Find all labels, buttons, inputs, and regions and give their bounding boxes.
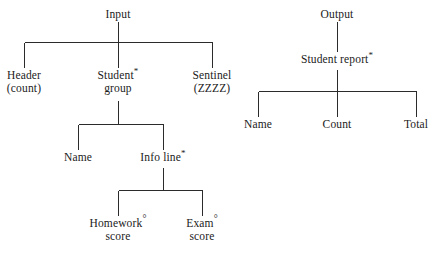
optional-marker-degree: ° — [142, 213, 146, 224]
node-sentinel-label-line1: Sentinel — [193, 69, 232, 82]
repetition-marker-asterisk: * — [134, 66, 139, 76]
node-name-label: Name — [64, 151, 92, 164]
node-out-name-label: Name — [244, 118, 272, 131]
repetition-marker-asterisk: * — [368, 50, 373, 60]
node-sentinel: Sentinel (ZZZZ) — [193, 69, 232, 95]
node-header-label-line1: Header — [7, 69, 41, 82]
node-out-total-label: Total — [404, 118, 428, 131]
node-student-group-text: Student — [98, 69, 134, 81]
node-out-count-label: Count — [323, 118, 352, 131]
repetition-marker-asterisk: * — [181, 148, 186, 158]
node-homework-score-label-line1: Homework° — [89, 217, 146, 230]
node-input-label: Input — [105, 8, 130, 21]
node-student-report-text: Student report — [301, 53, 369, 65]
node-info-line: Info line* — [140, 151, 185, 164]
node-student-report: Student report* — [301, 53, 373, 66]
node-header-label-line2: (count) — [7, 82, 41, 95]
optional-marker-degree: ° — [214, 213, 218, 224]
node-homework-score-label-line2: score — [89, 230, 146, 243]
node-out-count: Count — [323, 118, 352, 131]
node-out-name: Name — [244, 118, 272, 131]
node-student-group: Student* group — [98, 69, 139, 95]
node-info-line-text: Info line — [140, 151, 181, 163]
node-input: Input — [105, 8, 130, 21]
node-name: Name — [64, 151, 92, 164]
node-header: Header (count) — [7, 69, 41, 95]
node-student-group-label-line1: Student* — [98, 69, 139, 82]
node-student-report-label: Student report* — [301, 53, 373, 66]
node-student-group-label-line2: group — [98, 82, 139, 95]
node-info-line-label: Info line* — [140, 151, 185, 164]
node-output-label: Output — [321, 8, 354, 21]
structure-chart-diagram: Input Header (count) Student* group Sent… — [0, 0, 436, 260]
node-homework-score: Homework° score — [89, 217, 146, 243]
node-exam-score-label-line2: score — [186, 230, 218, 243]
node-homework-score-text: Homework — [89, 217, 142, 229]
node-exam-score-label-line1: Exam° — [186, 217, 218, 230]
node-output: Output — [321, 8, 354, 21]
node-exam-score: Exam° score — [186, 217, 218, 243]
node-sentinel-label-line2: (ZZZZ) — [193, 82, 232, 95]
connector-lines — [0, 0, 436, 260]
node-exam-score-text: Exam — [186, 217, 213, 229]
node-out-total: Total — [404, 118, 428, 131]
